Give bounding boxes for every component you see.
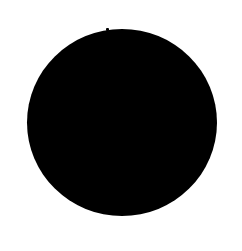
canvas (0, 0, 242, 251)
black-circle-icon (27, 29, 217, 216)
circle-edge-mark (106, 28, 109, 31)
